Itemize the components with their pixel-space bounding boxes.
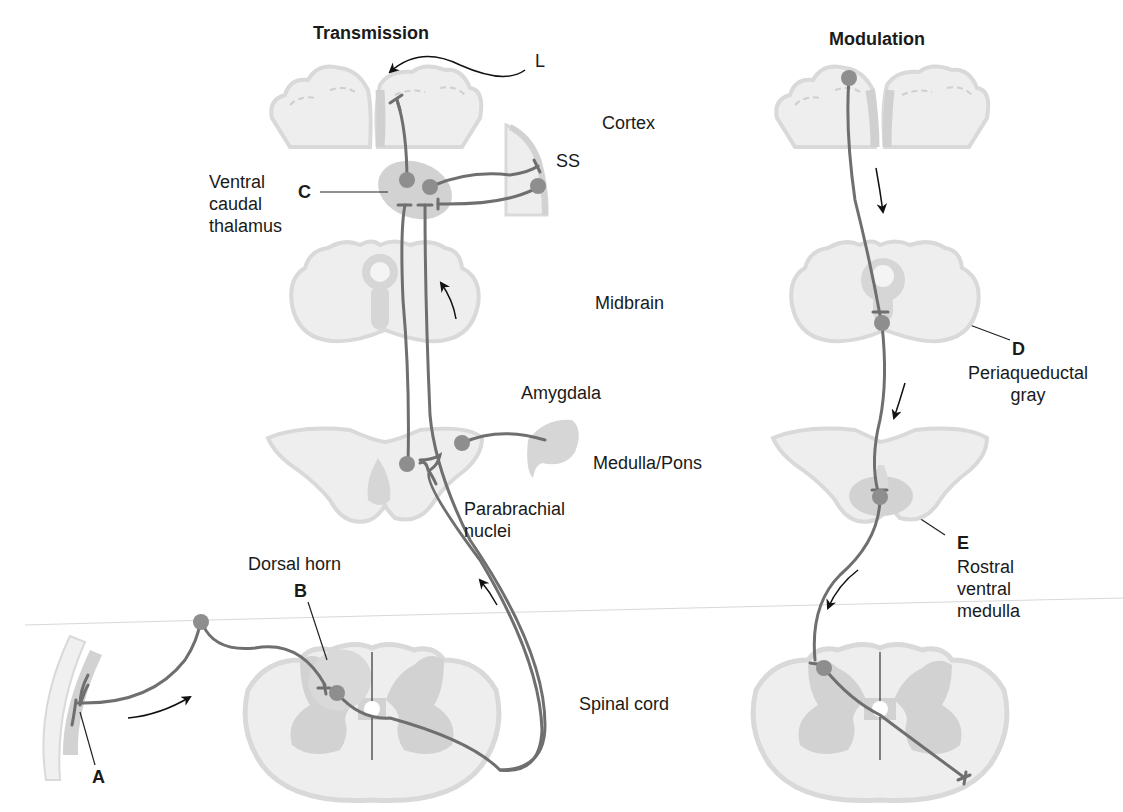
label-dorsal-horn: Dorsal horn [248,553,341,575]
letter-a: A [92,766,105,788]
pain-pathway-diagram [0,0,1123,812]
label-l: L [535,50,545,72]
cortex-right-hemisphere [376,66,481,147]
label-parabrachial-nuclei: Parabrachial nuclei [464,498,565,542]
modulation-cortex-left [776,67,875,148]
arrow-cortex-down [876,168,883,212]
arrow-skin-to-cord [128,697,190,718]
label-midbrain: Midbrain [595,292,664,314]
spinal-cord-section-transmission [245,638,499,801]
label-ventral-caudal-thalamus: Ventral caudal thalamus [209,171,282,237]
label-cortex: Cortex [602,112,655,134]
label-spinal-cord: Spinal cord [579,693,669,715]
amygdala-shape [527,420,579,478]
arrow-medulla-down [828,570,858,608]
label-rostral-ventral-medulla: Rostral ventral medulla [957,556,1020,622]
label-periaqueductal-gray: Periaqueductal gray [968,362,1088,406]
modulation-title: Modulation [829,28,925,50]
cortex-left-hemisphere [271,67,370,148]
ventral-caudal-thalamus-nucleus [370,151,461,230]
modulation-cortex-right [883,66,988,147]
label-medulla-pons: Medulla/Pons [593,452,702,474]
modulation-neuron-bodies [816,70,890,676]
spinal-cord-section-modulation [753,644,1007,800]
arrow-midbrain-down [894,383,905,418]
letter-d: D [1012,338,1025,360]
label-amygdala: Amygdala [521,382,601,404]
transmission-title: Transmission [313,22,429,44]
label-ss: SS [556,150,580,172]
letter-e: E [957,532,969,554]
medulla-pons-section [268,429,482,522]
letter-b: B [294,580,307,602]
letter-c: C [298,181,311,203]
midbrain-section [291,242,478,342]
